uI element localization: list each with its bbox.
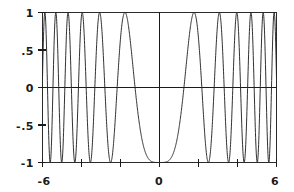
- y-tick-label-neg-0-5: -.5: [16, 120, 34, 133]
- origin-axes: [42, 12, 277, 163]
- x-tick-label-0: 0: [155, 175, 163, 188]
- y-tick-label-neg-1: -1: [21, 157, 34, 170]
- plot-canvas: 1 .5 0 -.5 -1 -6 0 6: [0, 0, 294, 192]
- y-tick-label-1: 1: [26, 7, 34, 20]
- y-tick-label-0-5: .5: [21, 45, 34, 58]
- chart-figure: 1 .5 0 -.5 -1 -6 0 6: [0, 0, 294, 192]
- x-tick-label-6: 6: [271, 175, 279, 188]
- y-tick-label-0: 0: [26, 82, 34, 95]
- x-tick-label-neg-6: -6: [37, 175, 50, 188]
